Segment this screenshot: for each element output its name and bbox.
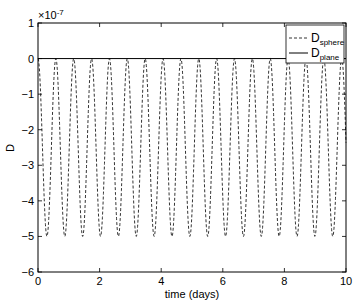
y-exponent-label: ×10-7: [38, 8, 64, 21]
x-tick-label: 6: [220, 275, 226, 287]
series-d-sphere-line: [38, 59, 346, 237]
y-tick-label: −2: [21, 124, 34, 136]
y-tick-label: −5: [21, 230, 34, 242]
x-tick-label: 2: [97, 275, 103, 287]
x-tick-label: 0: [35, 275, 41, 287]
x-tick-label: 10: [340, 275, 352, 287]
x-tick-label: 4: [158, 275, 164, 287]
y-tick-label: 0: [28, 53, 34, 65]
y-tick-label: −1: [21, 88, 34, 100]
y-tick-label: −3: [21, 159, 34, 171]
legend: Dsphere Dplane: [286, 25, 345, 63]
y-axis-label: D: [4, 144, 16, 152]
x-tick-label: 8: [281, 275, 287, 287]
y-tick-label: −4: [21, 195, 34, 207]
x-axis-label: time (days): [165, 288, 219, 300]
y-tick-label: −6: [21, 266, 34, 278]
y-tick-label: 1: [28, 17, 34, 29]
chart: 0246810 10−1−2−3−4−5−6 ×10-7 time (days)…: [0, 0, 361, 308]
plot-area: [38, 59, 346, 237]
